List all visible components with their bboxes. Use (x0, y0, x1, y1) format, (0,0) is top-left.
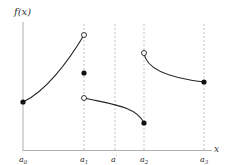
tick-label-a-prime: a′ (111, 153, 118, 164)
guide-lines (84, 24, 204, 150)
tick-label-a0: a0 (19, 155, 28, 165)
y-axis-label: f(x) (13, 6, 31, 17)
open-point-a1-right (82, 96, 87, 101)
curve-segment-2 (84, 98, 144, 123)
closed-point-a3 (201, 79, 206, 84)
tick-label-a2: a2 (140, 155, 149, 165)
tick-label-a3: a3 (200, 155, 209, 165)
open-point-a2-right (142, 51, 147, 56)
closed-point-a2 (141, 120, 146, 125)
curve-segment-3 (144, 53, 204, 82)
plot-svg: f(x) x a0 a1 a′ a2 a3 (0, 0, 228, 165)
curve-segment-1 (23, 35, 84, 102)
tick-label-a1: a1 (80, 155, 88, 165)
x-axis-label: x (214, 144, 219, 154)
tick-labels: a0 a1 a′ a2 a3 (19, 153, 209, 165)
closed-point-a1 (81, 70, 86, 75)
closed-point-a0 (20, 99, 25, 104)
function-diagram: f(x) x a0 a1 a′ a2 a3 (0, 0, 228, 165)
open-point-a1-left (82, 33, 87, 38)
